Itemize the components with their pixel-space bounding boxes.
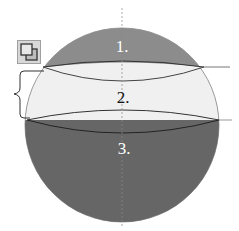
region-3-segment (0, 120, 239, 231)
region-1-label: 1. (116, 37, 129, 56)
region-3-label: 3. (118, 139, 131, 158)
copy-icon (17, 40, 41, 64)
region-2-label: 2. (117, 88, 130, 107)
sphere-diagram: 1. 2. 3. (0, 0, 239, 231)
copy-button[interactable] (17, 40, 41, 64)
